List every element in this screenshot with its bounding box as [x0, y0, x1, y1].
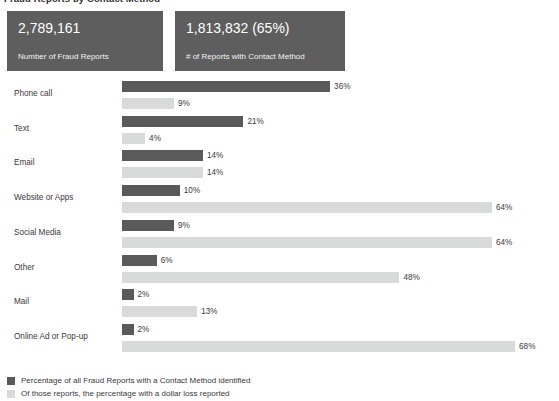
bar-value-label: 4%	[149, 134, 161, 143]
category-label: Mail	[14, 297, 29, 306]
category-label: Other	[14, 263, 34, 272]
bar-secondary: 48%	[122, 272, 439, 283]
bar-primary: 9%	[122, 220, 214, 231]
bar-rect	[122, 341, 515, 352]
bar-rect	[122, 116, 243, 127]
bar-secondary: 14%	[122, 167, 243, 178]
bar-group: Other6%48%	[0, 252, 559, 286]
bar-rect	[122, 202, 492, 213]
bar-rect	[122, 81, 330, 92]
bar-primary: 6%	[122, 255, 197, 266]
bar-primary: 2%	[122, 289, 174, 300]
page-title: Fraud Reports by Contact Method	[4, 0, 160, 4]
bar-secondary: 64%	[122, 237, 532, 248]
bar-value-label: 9%	[178, 99, 190, 108]
bar-value-label: 2%	[138, 290, 150, 299]
bar-rect	[122, 255, 157, 266]
legend-item: Percentage of all Fraud Reports with a C…	[7, 374, 250, 387]
bar-group: Email14%14%	[0, 147, 559, 181]
category-label: Website or Apps	[14, 193, 73, 202]
bar-secondary: 9%	[122, 98, 214, 109]
bar-rect	[122, 237, 492, 248]
bar-rect	[122, 98, 174, 109]
bar-value-label: 48%	[403, 273, 419, 282]
bar-value-label: 64%	[496, 203, 512, 212]
bar-rect	[122, 185, 180, 196]
kpi-value: 1,813,832 (65%)	[186, 20, 334, 36]
bar-group: Text21%4%	[0, 113, 559, 147]
legend-swatch-icon	[7, 377, 15, 385]
bar-value-label: 6%	[161, 256, 173, 265]
bar-group: Mail2%13%	[0, 286, 559, 320]
bar-value-label: 9%	[178, 221, 190, 230]
bar-secondary: 13%	[122, 306, 237, 317]
kpi-label: Number of Fraud Reports	[18, 52, 152, 62]
bar-rect	[122, 289, 134, 300]
bar-primary: 2%	[122, 324, 174, 335]
bar-value-label: 14%	[207, 168, 223, 177]
legend-item-label: Percentage of all Fraud Reports with a C…	[21, 376, 250, 385]
bar-secondary: 4%	[122, 133, 185, 144]
bar-group: Phone call36%9%	[0, 78, 559, 112]
bar-value-label: 14%	[207, 151, 223, 160]
bar-group: Website or Apps10%64%	[0, 182, 559, 216]
kpi-value: 2,789,161	[18, 20, 152, 36]
category-label: Phone call	[14, 89, 52, 98]
bar-rect	[122, 150, 203, 161]
bar-value-label: 68%	[519, 342, 535, 351]
bar-rect	[122, 306, 197, 317]
bar-primary: 21%	[122, 116, 283, 127]
bar-primary: 14%	[122, 150, 243, 161]
chart-legend: Percentage of all Fraud Reports with a C…	[7, 374, 250, 400]
bar-value-label: 64%	[496, 238, 512, 247]
kpi-card-total-fraud-reports: 2,789,161 Number of Fraud Reports	[7, 11, 163, 71]
bar-group: Online Ad or Pop-up2%68%	[0, 321, 559, 355]
legend-item-label: Of those reports, the percentage with a …	[21, 389, 230, 398]
kpi-label: # of Reports with Contact Method	[186, 52, 334, 62]
category-label: Text	[14, 124, 29, 133]
bar-rect	[122, 167, 203, 178]
bar-value-label: 10%	[184, 186, 200, 195]
legend-swatch-icon	[7, 390, 15, 398]
bar-rect	[122, 324, 134, 335]
bar-value-label: 2%	[138, 325, 150, 334]
bar-value-label: 21%	[247, 117, 263, 126]
category-label: Social Media	[14, 228, 61, 237]
category-label: Email	[14, 158, 34, 167]
bar-rect	[122, 133, 145, 144]
category-label: Online Ad or Pop-up	[14, 332, 88, 341]
bar-secondary: 64%	[122, 202, 532, 213]
bar-primary: 10%	[122, 185, 220, 196]
legend-item: Of those reports, the percentage with a …	[7, 387, 250, 400]
bar-group: Social Media9%64%	[0, 217, 559, 251]
bar-value-label: 36%	[334, 82, 350, 91]
bar-value-label: 13%	[201, 307, 217, 316]
kpi-card-reports-with-contact-method: 1,813,832 (65%) # of Reports with Contac…	[175, 11, 345, 71]
bar-primary: 36%	[122, 81, 370, 92]
bar-chart-plot-area: Phone call36%9%Text21%4%Email14%14%Websi…	[0, 78, 559, 368]
bar-rect	[122, 220, 174, 231]
bar-secondary: 68%	[122, 341, 555, 352]
bar-rect	[122, 272, 399, 283]
